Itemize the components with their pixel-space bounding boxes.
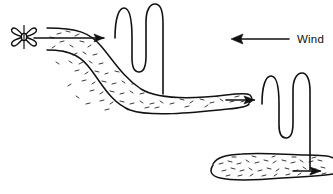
wind-arrow — [231, 34, 289, 44]
plume-upper-group — [47, 28, 252, 114]
plume-wind-diagram: Wind — [0, 0, 333, 194]
plume-lower-group — [210, 153, 333, 180]
figure-canvas: Wind — [0, 0, 333, 194]
fan-icon — [12, 25, 37, 49]
wind-label: Wind — [297, 33, 324, 45]
